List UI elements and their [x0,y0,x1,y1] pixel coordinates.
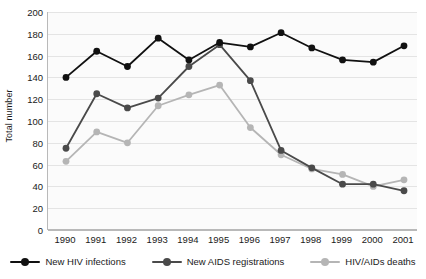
data-point [308,164,315,171]
data-point [401,176,408,183]
series-line-2 [66,85,404,186]
x-tick-2001: 2001 [392,234,413,245]
data-point [186,91,193,98]
line-chart: Total number 020406080100120140160180200… [0,0,426,279]
y-tick-180: 180 [27,28,43,39]
data-point [247,43,254,50]
x-tick-1999: 1999 [331,234,352,245]
data-point [63,158,70,165]
series-layer [48,12,418,230]
x-tick-2000: 2000 [362,234,383,245]
y-axis-title: Total number [2,0,16,232]
y-axis-title-label: Total number [4,89,14,142]
data-point [308,45,315,52]
x-tick-1991: 1991 [85,234,106,245]
data-point [339,57,346,64]
data-point [278,29,285,36]
y-tick-20: 20 [32,203,43,214]
data-point [124,63,131,70]
y-tick-60: 60 [32,159,43,170]
x-tick-1997: 1997 [270,234,291,245]
legend-marker-icon [152,257,182,267]
data-point [93,129,100,136]
x-tick-1990: 1990 [54,234,75,245]
series-line-1 [66,45,404,191]
data-point [186,57,193,64]
data-point [216,82,223,89]
legend-item-2[interactable]: HIV/AIDs deaths [310,256,415,267]
data-point [93,90,100,97]
legend-label: New AIDS registrations [187,256,285,267]
x-tick-1993: 1993 [147,234,168,245]
y-tick-40: 40 [32,181,43,192]
data-point [370,181,377,188]
legend-item-0[interactable]: New HIV infections [10,256,125,267]
data-point [63,145,70,152]
data-point [63,74,70,81]
y-tick-120: 120 [27,94,43,105]
legend-marker-icon [310,257,340,267]
y-tick-140: 140 [27,72,43,83]
x-tick-1998: 1998 [300,234,321,245]
data-point [155,95,162,102]
data-point [339,171,346,178]
data-point [93,48,100,55]
series-line-0 [66,33,404,78]
data-point [124,105,131,112]
plot-area: 020406080100120140160180200 [47,12,417,230]
data-point [216,39,223,46]
x-tick-1992: 1992 [116,234,137,245]
legend-label: New HIV infections [45,256,125,267]
data-point [339,181,346,188]
data-point [247,77,254,84]
chart-legend: New HIV infectionsNew AIDS registrations… [0,256,426,267]
x-tick-1995: 1995 [208,234,229,245]
data-point [401,187,408,194]
data-point [401,42,408,49]
data-point [186,63,193,70]
y-tick-160: 160 [27,50,43,61]
data-point [370,59,377,66]
y-tick-80: 80 [32,137,43,148]
x-tick-1994: 1994 [177,234,198,245]
data-point [247,124,254,131]
data-point [155,35,162,42]
y-tick-200: 200 [27,7,43,18]
data-point [278,147,285,154]
y-tick-0: 0 [38,225,43,236]
y-tick-100: 100 [27,116,43,127]
data-point [155,102,162,109]
data-point [124,139,131,146]
legend-item-1[interactable]: New AIDS registrations [152,256,285,267]
legend-marker-icon [10,257,40,267]
x-tick-1996: 1996 [239,234,260,245]
gridline-0 [48,230,417,231]
legend-label: HIV/AIDs deaths [345,256,415,267]
